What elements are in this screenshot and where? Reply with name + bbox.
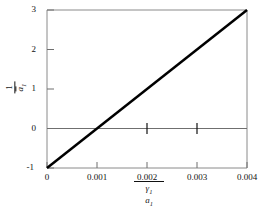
x-tick-label-0.004: 0.004 — [227, 173, 265, 182]
y-tick-label-2: 2 — [14, 45, 36, 54]
y-axis-label-denominator: a1 — [16, 82, 29, 94]
y-tick-label-minus-1: -1 — [12, 163, 34, 172]
x-axis-label: γ1 a1 — [127, 181, 171, 208]
y-axis-label-fraction: 1 a1 — [5, 82, 28, 94]
y-axis-label-denominator-sub: 1 — [21, 84, 28, 87]
x-tick-label-0.001: 0.001 — [77, 173, 117, 182]
y-axis-ticks — [47, 10, 54, 168]
y-tick-label-3: 3 — [14, 5, 36, 14]
x-tick-label-0.003: 0.003 — [177, 173, 217, 182]
x-axis-label-denominator-sub: 1 — [150, 200, 153, 207]
x-tick-label-0: 0 — [27, 173, 67, 182]
chart-figure: 3 2 1 0 -1 0 0.001 0.002 0.003 0.004 1 a… — [0, 0, 265, 223]
x-axis-label-numerator: γ1 — [127, 183, 171, 195]
y-axis-label-denominator-base: a — [16, 87, 26, 92]
x-axis-ticks — [47, 162, 247, 168]
y-tick-label-0: 0 — [14, 124, 36, 133]
data-line-series-1 — [47, 10, 247, 168]
x-axis-label-fraction-bar — [134, 181, 164, 182]
x-axis-label-numerator-sub: 1 — [149, 188, 152, 195]
y-axis-label: 1 a1 — [2, 72, 32, 104]
y-axis-label-numerator: 1 — [5, 82, 15, 94]
y-axis-label-rotated: 1 a1 — [5, 82, 28, 94]
x-axis-label-denominator: a1 — [127, 195, 171, 207]
